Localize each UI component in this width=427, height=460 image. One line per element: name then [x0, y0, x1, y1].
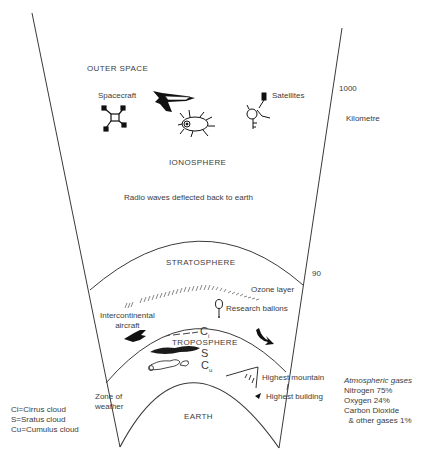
cirrus-letter: C	[200, 325, 208, 337]
spacecraft-icon	[102, 106, 126, 131]
legend-item: Ci=Cirrus cloud	[11, 405, 79, 415]
cloud-legend: Ci=Cirrus cloud S=Sratus cloud Cu=Cumulu…	[11, 405, 79, 435]
gas-item: Carbon Dioxide	[344, 406, 412, 416]
cumulus-symbol: Cu	[201, 360, 212, 375]
research-balloons-label: Research ballons	[226, 304, 288, 314]
spacecraft-label: Spacecraft	[98, 91, 136, 101]
atmospheric-gases-box: Atmospheric gases Nitrogen 75% Oxygen 24…	[344, 376, 412, 426]
ionosphere-label: IONOSPHERE	[169, 158, 226, 168]
ionosphere-note: Radio waves deflected back to earth	[124, 193, 253, 203]
atmosphere-diagram: OUTER SPACE Spacecraft Satellites 1000 K…	[0, 0, 427, 460]
highest-mountain-icon	[226, 367, 258, 388]
gases-title: Atmospheric gases	[344, 376, 412, 386]
gas-item: & other gases 1%	[344, 416, 412, 426]
aircraft-label: Intercontinental aircraft	[100, 311, 155, 331]
satellites-label: Satellites	[272, 91, 304, 101]
earth-label: EARTH	[184, 412, 213, 422]
stratus-symbol: S	[201, 348, 208, 358]
scale-top-value: 1000	[339, 84, 357, 94]
stratosphere-scale-value: 90	[312, 269, 321, 279]
gas-item: Oxygen 24%	[344, 396, 412, 406]
ozone-layer-label: Ozone layer	[251, 285, 294, 295]
highest-building-label: Highest building	[266, 392, 323, 402]
research-balloon-icon	[216, 300, 223, 319]
cumulus-subscript: u	[209, 367, 212, 373]
legend-item: S=Sratus cloud	[11, 415, 79, 425]
outer-space-label: OUTER SPACE	[87, 64, 148, 74]
probe-satellite-icon	[178, 110, 215, 137]
cumulus-cloud-icon	[149, 360, 189, 371]
zone-of-weather-label: Zone of weather	[95, 392, 123, 412]
gas-item: Nitrogen 75%	[344, 386, 412, 396]
space-shuttle-icon	[153, 91, 195, 112]
legend-item: Cu=Cumulus cloud	[11, 425, 79, 435]
curved-arrow-icon	[256, 328, 274, 345]
stratosphere-label: STRATOSPHERE	[166, 258, 235, 268]
highest-building-icon	[255, 393, 261, 399]
satellite-icon	[247, 93, 270, 129]
cumulus-letter: C	[201, 359, 209, 371]
aircraft-icon	[124, 330, 146, 342]
scale-unit-label: Kilometre	[346, 114, 380, 124]
highest-mountain-label: Highest mountain	[262, 373, 324, 383]
